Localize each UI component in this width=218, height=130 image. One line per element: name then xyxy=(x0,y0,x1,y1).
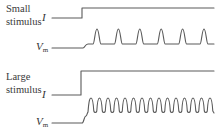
small-voltage-trace xyxy=(52,29,214,48)
large-voltage-trace xyxy=(52,98,214,123)
large-current-trace xyxy=(52,71,214,95)
traces xyxy=(0,0,218,130)
small-current-trace xyxy=(52,8,214,18)
